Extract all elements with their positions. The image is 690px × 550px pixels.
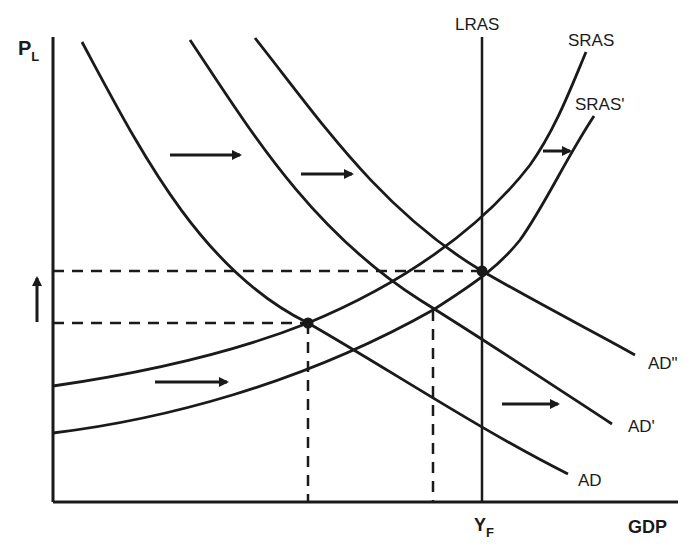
sras-label: SRAS bbox=[568, 32, 614, 49]
sras-curve bbox=[53, 52, 586, 386]
x-axis-label: GDP bbox=[628, 518, 667, 536]
ad-as-diagram bbox=[0, 0, 690, 550]
ad-double-prime-curve bbox=[255, 38, 635, 355]
final-equilibrium-point bbox=[477, 266, 488, 277]
ad-double-prime-label: AD" bbox=[648, 355, 678, 372]
lras-label: LRAS bbox=[455, 16, 499, 33]
y-axis-label: PL bbox=[18, 38, 39, 58]
ad-prime-curve bbox=[190, 40, 612, 424]
ad-label: AD bbox=[578, 472, 602, 489]
initial-equilibrium-point bbox=[303, 318, 314, 329]
x-tick-label-yf: YF bbox=[474, 516, 494, 534]
ad-prime-label: AD' bbox=[628, 418, 655, 435]
sras-prime-label: SRAS' bbox=[575, 96, 625, 113]
ad-curve bbox=[82, 42, 568, 474]
sras-prime-curve bbox=[53, 116, 594, 433]
